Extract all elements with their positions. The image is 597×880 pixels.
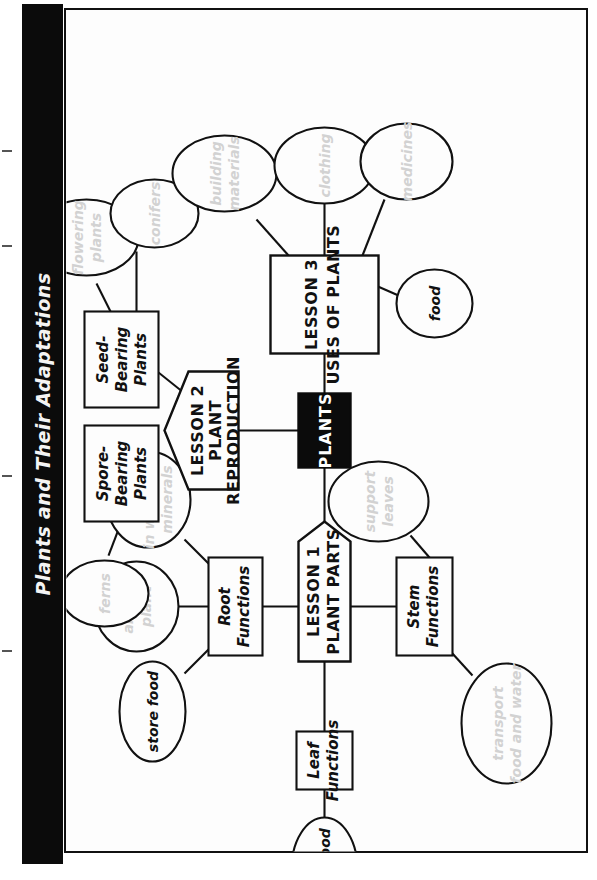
take-in-water-line3: minerals	[158, 465, 174, 533]
conifers-label: conifers	[146, 181, 162, 245]
building-materials-line1: building	[207, 141, 223, 205]
node-root-functions[interactable]: Root Functions	[208, 557, 262, 655]
seed-bearing-line2: Bearing	[112, 326, 130, 392]
node-stem-functions[interactable]: Stem Functions	[396, 557, 452, 655]
root-functions-line1: Root	[215, 586, 233, 625]
node-building-materials[interactable]: building materials	[172, 135, 276, 211]
node-leaf-functions[interactable]: Leaf Functions	[296, 719, 352, 800]
flowering-plants-line2: plants	[87, 212, 103, 262]
node-transport-food-and-water[interactable]: transport food and water	[461, 662, 551, 783]
support-leaves-ellipse	[328, 461, 428, 541]
flowering-plants-line1: flowering	[69, 200, 85, 275]
scan-tick-mark	[2, 650, 12, 652]
stem-functions-line2: Functions	[423, 565, 441, 646]
support-leaves-line2: leaves	[379, 476, 395, 527]
center-label: PLANTS	[315, 392, 334, 468]
node-ferns[interactable]: ferns	[66, 560, 148, 626]
diagram-rotation-wrapper: PLANTS LESSON 1 PLANT PARTS Root Functio…	[66, 10, 586, 851]
lesson1-label-line1: LESSON 1	[303, 545, 322, 636]
edge-lesson3-medicines	[362, 199, 384, 255]
spore-bearing-line3: Plants	[131, 446, 149, 499]
node-store-food[interactable]: store food	[119, 661, 185, 761]
node-food[interactable]: food	[396, 269, 472, 337]
node-plants-center[interactable]: PLANTS	[298, 392, 350, 468]
node-spore-bearing-plants[interactable]: Spore- Bearing Plants	[84, 425, 158, 521]
scanned-page: Plants and Their Adaptations	[0, 0, 597, 880]
node-clothing[interactable]: clothing	[274, 127, 374, 203]
building-materials-line2: materials	[225, 136, 241, 211]
leaf-functions-line2: Functions	[323, 719, 341, 800]
scan-tick-mark	[2, 150, 12, 152]
node-make-food[interactable]: make food	[291, 817, 357, 851]
root-functions-line2: Functions	[234, 565, 252, 646]
make-food-label: make food	[316, 827, 332, 851]
node-support-leaves[interactable]: support leaves	[328, 461, 428, 541]
food-label: food	[426, 284, 442, 320]
scan-tick-mark	[2, 245, 12, 247]
medicines-label: medicines	[398, 121, 414, 201]
diagram-card: PLANTS LESSON 1 PLANT PARTS Root Functio…	[64, 8, 588, 853]
node-seed-bearing-plants[interactable]: Seed- Bearing Plants	[84, 311, 158, 407]
ferns-label: ferns	[96, 573, 112, 614]
lesson2-label-line1: LESSON 2	[187, 384, 206, 475]
edge-lesson3-building	[256, 219, 288, 255]
seed-bearing-line3: Plants	[131, 332, 149, 385]
lesson2-label-line2: PLANT	[205, 399, 224, 460]
page-title-bar: Plants and Their Adaptations	[22, 4, 63, 864]
node-lesson3[interactable]: LESSON 3 USES OF PLANTS	[270, 224, 378, 384]
transport-line2: food and water	[507, 662, 523, 783]
building-materials-ellipse	[172, 135, 276, 211]
node-medicines[interactable]: medicines	[360, 121, 452, 201]
clothing-label: clothing	[316, 133, 332, 197]
leaf-functions-line1: Leaf	[304, 739, 322, 778]
node-lesson1[interactable]: LESSON 1 PLANT PARTS	[298, 521, 350, 661]
spore-bearing-line1: Spore-	[93, 445, 111, 501]
lesson1-label-line2: PLANT PARTS	[323, 528, 342, 654]
seed-bearing-line1: Seed-	[93, 335, 111, 383]
concept-map-svg: PLANTS LESSON 1 PLANT PARTS Root Functio…	[66, 10, 586, 851]
support-leaves-line1: support	[361, 469, 377, 532]
page-title: Plants and Their Adaptations	[32, 273, 54, 596]
transport-line1: transport	[489, 684, 505, 760]
lesson2-label-line3: REPRODUCTION	[223, 356, 242, 505]
lesson3-label-line1: LESSON 3	[301, 258, 320, 349]
stem-functions-line1: Stem	[404, 584, 422, 628]
edge-seed-flowering	[96, 283, 110, 311]
store-food-label: store food	[144, 669, 160, 751]
transport-ellipse	[461, 663, 551, 783]
lesson3-label-line2: USES OF PLANTS	[323, 224, 342, 384]
spore-bearing-line2: Bearing	[112, 440, 130, 506]
scan-tick-mark	[2, 475, 12, 477]
